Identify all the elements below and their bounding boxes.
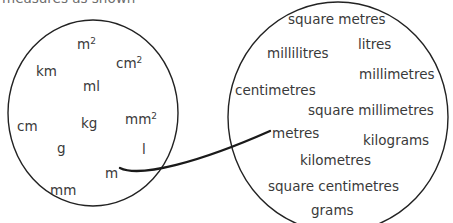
label-km: km xyxy=(36,65,57,79)
label-cm2: cm2 xyxy=(116,57,142,71)
label-g: g xyxy=(57,142,66,156)
label-square-metres: square metres xyxy=(288,13,386,27)
label-metres: metres xyxy=(272,127,319,141)
diagram-canvas: measures as shown m2 cm2 km ml mm2 cm kg… xyxy=(0,0,453,223)
label-square-millimetres: square millimetres xyxy=(308,104,434,118)
label-m: m xyxy=(105,167,118,181)
label-kg: kg xyxy=(81,117,97,131)
label-mm2: mm2 xyxy=(125,113,157,127)
label-l: l xyxy=(142,143,146,157)
label-millimetres: millimetres xyxy=(359,68,435,82)
label-mm: mm xyxy=(50,184,76,198)
label-cm: cm xyxy=(17,120,38,134)
label-millilitres: millilitres xyxy=(267,47,329,61)
label-square-centimetres: square centimetres xyxy=(268,180,399,194)
label-m2: m2 xyxy=(77,38,96,52)
label-litres: litres xyxy=(358,38,391,52)
label-grams: grams xyxy=(311,204,354,218)
label-kilograms: kilograms xyxy=(363,134,429,148)
label-kilometres: kilometres xyxy=(300,154,371,168)
label-centimetres: centimetres xyxy=(235,84,316,98)
label-ml: ml xyxy=(83,80,100,94)
